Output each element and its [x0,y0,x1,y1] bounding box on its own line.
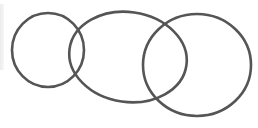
circle-right [143,14,251,116]
circle-left [12,13,84,87]
venn-diagram [0,0,258,128]
